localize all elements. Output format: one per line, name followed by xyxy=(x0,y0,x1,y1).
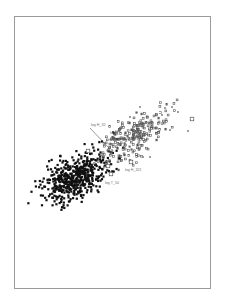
data-points xyxy=(27,99,194,211)
annotation-label: log H_32 xyxy=(91,123,105,127)
annotation-label: log S_ xyxy=(110,131,121,135)
annotation-label: log H_321 xyxy=(125,168,141,172)
scatter-plot: log H_32log S_log H_321log T_50 xyxy=(0,0,225,302)
annotation-label: log T_50 xyxy=(105,181,119,185)
